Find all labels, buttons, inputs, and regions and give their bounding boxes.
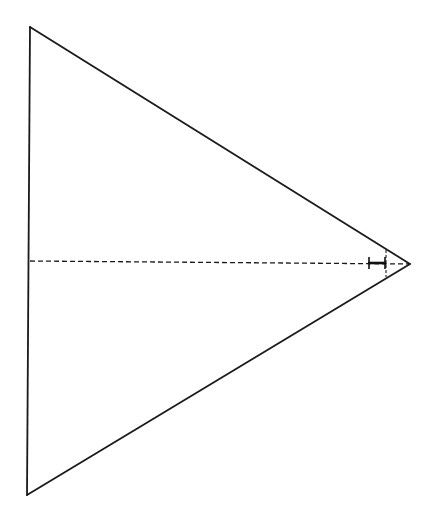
dashed-median-line xyxy=(30,261,410,264)
dimension-marker xyxy=(368,257,386,269)
triangle-upper-edge xyxy=(30,27,410,264)
triangle-left-edge xyxy=(27,27,30,495)
triangle-diagram xyxy=(0,0,441,510)
triangle-lower-edge xyxy=(27,264,410,495)
triangle xyxy=(27,27,410,495)
